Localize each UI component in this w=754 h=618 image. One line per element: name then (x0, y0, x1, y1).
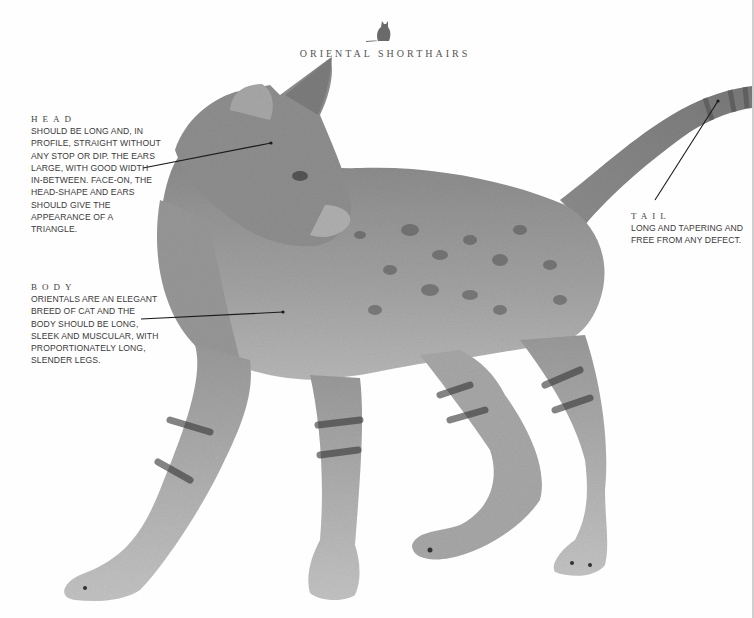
annotation-tail-label: TAIL (631, 211, 754, 221)
cat-tail (560, 86, 752, 225)
page-title: Oriental Shorthairs (290, 48, 480, 59)
cat-figure (64, 57, 752, 601)
sitting-cat-silhouette-icon (366, 21, 390, 42)
annotation-tail-text: Long and tapering and free from any defe… (631, 222, 754, 247)
cat-leg-front-left (64, 345, 251, 601)
cat-eye (292, 171, 308, 181)
annotation-body: BODY Orientals are an elegant breed of c… (31, 282, 161, 367)
annotation-body-label: BODY (31, 282, 161, 292)
annotation-body-text: Orientals are an elegant breed of cat an… (31, 293, 161, 367)
annotation-head-label: HEAD (31, 114, 161, 124)
cat-leg-hind-left (412, 350, 542, 559)
cat-leg-front-right (308, 375, 362, 600)
book-page: Oriental Shorthairs HEAD Should be long … (0, 0, 754, 618)
annotation-head: HEAD Should be long and, in profile, str… (31, 114, 161, 236)
annotation-head-text: Should be long and, in profile, straight… (31, 125, 161, 236)
annotation-tail: TAIL Long and tapering and free from any… (631, 211, 754, 247)
